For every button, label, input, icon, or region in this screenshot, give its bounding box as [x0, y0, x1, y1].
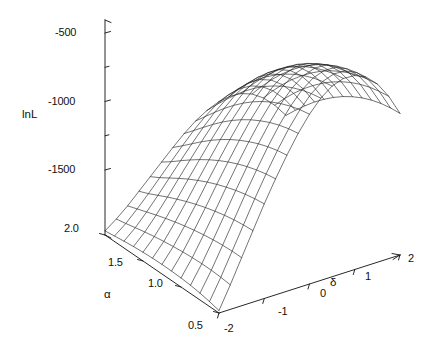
alpha-tick-label-1-0: 1.0: [148, 277, 163, 289]
delta-axis-title: δ: [330, 276, 336, 288]
delta-tick-label-2: 2: [408, 252, 414, 264]
delta-tick-label-1: 1: [365, 270, 371, 282]
delta-tick-label-minus1: -1: [278, 305, 287, 317]
z-axis-title: lnL: [22, 108, 37, 120]
delta-tick-label-0: 0: [320, 287, 326, 299]
z-tick-label-minus500: -500: [55, 26, 76, 38]
surface-plot-figure: -500 -1000 -1500 lnL 2.0 1.5 1.0 0.5 α -…: [0, 0, 428, 345]
axis-lines-group: [100, 20, 401, 318]
alpha-tick-label-2-0: 2.0: [64, 222, 79, 234]
alpha-tick-label-0-5: 0.5: [188, 319, 203, 331]
surface-wireframe-mesh: [105, 63, 400, 310]
alpha-axis-title: α: [104, 288, 111, 300]
z-tick-label-minus1500: -1500: [48, 163, 75, 175]
alpha-tick-label-1-5: 1.5: [108, 256, 123, 268]
z-tick-label-minus1000: -1000: [48, 95, 75, 107]
delta-tick-label-minus2: -2: [224, 322, 233, 334]
